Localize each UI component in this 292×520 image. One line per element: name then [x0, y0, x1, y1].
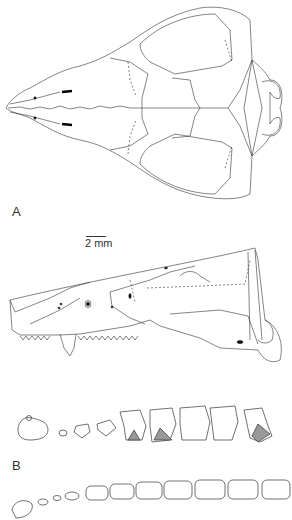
panel-label-a: A [12, 204, 21, 219]
panel-label-b: B [12, 458, 21, 473]
tooth-rows [0, 400, 292, 520]
lower-tooth-row [12, 480, 290, 518]
dorsal-skull-view [0, 0, 292, 200]
lateral-skull-view [0, 240, 292, 370]
upper-tooth-row [18, 406, 272, 442]
